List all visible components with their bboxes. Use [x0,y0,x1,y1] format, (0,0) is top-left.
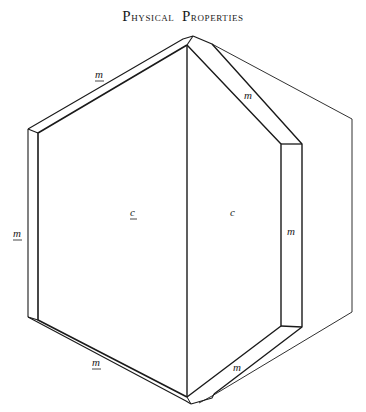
front-face-c [38,45,187,397]
label-c-front: c [130,206,135,218]
label-m-right: m [287,225,295,237]
label-m-top-left: m [95,68,103,80]
back-outline [199,44,352,403]
crystal-diagram: c c m m m m m m [0,0,366,412]
label-m-top-right: m [244,89,252,101]
left-prism-faces [28,36,193,404]
label-m-bottom-left: m [92,356,100,368]
label-m-bottom-right: m [233,361,241,373]
label-m-left: m [13,227,21,239]
label-c-back: c [230,206,235,218]
